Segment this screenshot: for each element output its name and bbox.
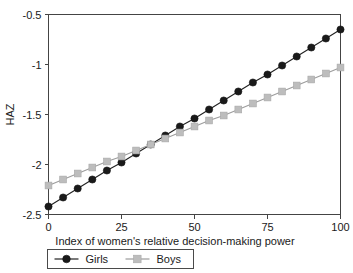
- haz-line-chart: -0.5-1-1.5-2-2.50255075100Index of women…: [0, 0, 353, 273]
- data-point-boys: [147, 141, 154, 148]
- y-tick-label: -1.5: [23, 109, 42, 121]
- legend-square-marker-boys: [134, 255, 142, 263]
- data-point-girls: [293, 53, 300, 60]
- data-point-boys: [133, 147, 140, 154]
- plot-frame: [49, 15, 341, 215]
- data-point-boys: [162, 135, 169, 142]
- x-tick-label: 25: [115, 221, 127, 233]
- data-point-girls: [74, 185, 81, 192]
- data-point-girls: [308, 44, 315, 51]
- data-point-girls: [249, 79, 256, 86]
- x-tick-label: 50: [188, 221, 200, 233]
- data-point-boys: [60, 176, 67, 183]
- data-point-boys: [308, 76, 315, 83]
- data-point-girls: [45, 203, 52, 210]
- x-tick-label: 0: [45, 221, 51, 233]
- data-point-girls: [279, 62, 286, 69]
- y-tick-label: -2: [32, 159, 42, 171]
- data-point-girls: [264, 71, 271, 78]
- y-tick-label: -2.5: [23, 209, 42, 221]
- x-tick-label: 75: [261, 221, 273, 233]
- data-point-girls: [103, 167, 110, 174]
- data-point-boys: [191, 123, 198, 130]
- x-axis-title: Index of women's relative decision-makin…: [55, 235, 295, 247]
- data-point-boys: [89, 164, 96, 171]
- data-point-girls: [89, 176, 96, 183]
- data-point-boys: [250, 100, 257, 107]
- data-point-girls: [337, 26, 344, 33]
- data-point-girls: [60, 194, 67, 201]
- data-point-boys: [118, 153, 125, 160]
- legend-circle-marker-girls: [63, 255, 71, 263]
- data-point-girls: [206, 106, 213, 113]
- data-point-boys: [337, 64, 344, 71]
- data-point-boys: [177, 129, 184, 136]
- data-point-girls: [220, 97, 227, 104]
- chart-figure: -0.5-1-1.5-2-2.50255075100Index of women…: [0, 0, 353, 273]
- data-point-boys: [323, 70, 330, 77]
- data-point-boys: [206, 117, 213, 124]
- data-point-boys: [235, 106, 242, 113]
- y-tick-label: -1: [32, 59, 42, 71]
- data-point-boys: [220, 112, 227, 119]
- x-tick-label: 100: [331, 221, 349, 233]
- data-point-boys: [74, 170, 81, 177]
- data-point-girls: [235, 88, 242, 95]
- y-tick-label: -0.5: [23, 9, 42, 21]
- data-point-boys: [104, 158, 111, 165]
- data-point-girls: [191, 115, 198, 122]
- data-point-boys: [293, 82, 300, 89]
- legend-label-boys: Boys: [157, 253, 182, 265]
- legend-label-girls: Girls: [86, 253, 109, 265]
- y-axis-title: HAZ: [4, 103, 16, 125]
- data-point-girls: [322, 35, 329, 42]
- data-point-boys: [279, 88, 286, 95]
- data-point-boys: [45, 182, 52, 189]
- data-point-boys: [264, 94, 271, 101]
